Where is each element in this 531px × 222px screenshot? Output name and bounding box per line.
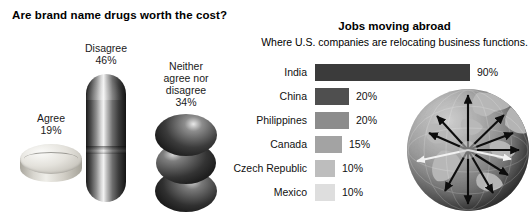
left-chart-title: Are brand name drugs worth the cost? [12,9,227,21]
bar-value-label: 20% [356,114,377,127]
bar-track [315,184,335,201]
capsule-seam [86,146,126,154]
bar-row: India90% [258,63,483,87]
bar-category-label: China [157,90,307,103]
bar-fill [315,64,470,81]
pill-group-disagree: Disagree 46% [62,42,150,202]
bar-category-label: Czech Republic [157,162,307,175]
bar-category-label: India [157,66,307,79]
bar-fill [315,160,335,177]
bar-fill [315,136,342,153]
bar-track [315,88,349,105]
right-chart-title: Jobs moving abroad [258,20,531,32]
bar-category-label: Philippines [157,114,307,127]
bar-fill [315,184,335,201]
bar-track [315,112,349,129]
bar-fill [315,88,349,105]
globe-sphere [407,89,529,211]
bar-track [315,64,470,81]
bar-track [315,160,335,177]
bar-track [315,136,342,153]
bar-fill [315,112,349,129]
bar-value-label: 10% [342,162,363,175]
bar-value-label: 90% [477,66,498,79]
bar-value-label: 20% [356,90,377,103]
radiating-arrows [407,89,529,211]
jobs-abroad-chart-panel: Jobs moving abroad Where U.S. companies … [258,0,531,222]
globe-with-radiating-arrows-icon [407,89,529,211]
bar-value-label: 10% [342,186,363,199]
capsule-pill-icon [86,74,126,202]
bar-value-label: 15% [349,138,370,151]
bar-category-label: Canada [157,138,307,151]
pill-label-disagree: Disagree [62,42,150,54]
bar-category-label: Mexico [157,186,307,199]
right-chart-subtitle: Where U.S. companies are relocating busi… [258,36,531,48]
pill-value-disagree: 46% [62,54,150,66]
